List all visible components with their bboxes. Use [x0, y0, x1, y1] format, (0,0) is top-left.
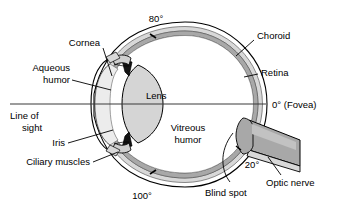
label-blind-spot: Blind spot	[205, 187, 247, 198]
label-line-of-sight-line1: Line of	[10, 110, 39, 121]
label-lens: Lens	[146, 90, 167, 101]
label-retina: Retina	[261, 67, 289, 78]
label-line-of-sight-line2: sight	[22, 122, 42, 133]
label-vitreous-humor-line2: humor	[175, 134, 202, 145]
label-iris: Iris	[52, 137, 65, 148]
label-aqueous-humor-line1: Aqueous	[32, 62, 70, 73]
label-ciliary-muscles: Ciliary muscles	[26, 156, 90, 167]
angle-label-20-degrees: 20°	[245, 159, 260, 170]
angle-label-80-degrees: 80°	[149, 13, 164, 24]
label-cornea: Cornea	[69, 37, 101, 48]
label-vitreous-humor-line1: Vitreous	[171, 122, 206, 133]
label-aqueous-humor-line2: humor	[43, 74, 70, 85]
label-optic-nerve: Optic nerve	[266, 177, 315, 188]
angle-label-100-degrees: 100°	[132, 190, 152, 201]
label-fovea: 0° (Fovea)	[272, 99, 316, 110]
label-choroid: Choroid	[257, 30, 290, 41]
eye-anatomy-diagram: Cornea Aqueous humor Lens Iris Ciliary m…	[0, 0, 339, 216]
eye-cross-section-illustration: Cornea Aqueous humor Lens Iris Ciliary m…	[0, 0, 339, 216]
